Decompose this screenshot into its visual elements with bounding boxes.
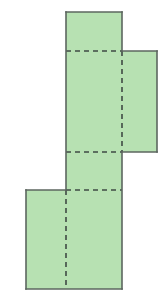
net-fill-group — [26, 12, 157, 289]
figure-container: Net of a rectangular prism A green shade… — [0, 0, 165, 300]
net-outline-shape — [26, 12, 157, 289]
net-diagram: Net of a rectangular prism A green shade… — [0, 0, 165, 300]
